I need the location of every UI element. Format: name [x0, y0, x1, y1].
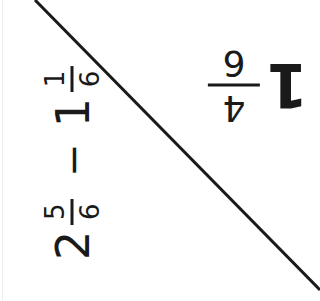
answer-numerator: 4: [223, 90, 246, 126]
first-denominator: 6: [77, 203, 103, 220]
answer-denominator: 6: [223, 45, 246, 81]
problem-expression: 2 5 6 − 1 1 6: [42, 60, 103, 260]
first-numerator: 5: [42, 203, 68, 220]
answer-fraction: 4 6: [208, 45, 260, 126]
second-whole: 1: [45, 98, 99, 127]
answer-expression: 1 4 6: [202, 45, 308, 126]
answer-whole: 1: [266, 50, 308, 120]
second-denominator: 6: [77, 71, 103, 88]
math-card: 2 5 6 − 1 1 6 1 4 6: [0, 0, 320, 301]
first-fraction: 5 6: [42, 199, 103, 225]
minus-operator: −: [49, 143, 95, 177]
second-fraction: 1 6: [42, 66, 103, 92]
first-whole: 2: [45, 231, 99, 260]
second-numerator: 1: [42, 71, 68, 88]
